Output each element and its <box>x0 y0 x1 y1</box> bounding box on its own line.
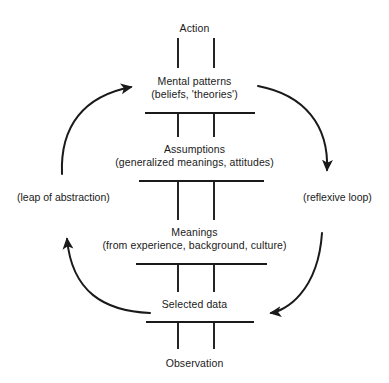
step-label-mental-patterns: Mental patterns (beliefs, 'theories') <box>0 75 389 100</box>
step-title-observation: Observation <box>166 357 224 369</box>
step-label-observation: Observation <box>0 357 389 370</box>
step-subtitle-mental-patterns: (beliefs, 'theories') <box>0 88 389 101</box>
step-subtitle-meanings: (from experience, background, culture) <box>0 239 389 252</box>
step-title-assumptions: Assumptions <box>164 143 225 155</box>
loop-label-reflexive-loop: (reflexive loop) <box>303 191 372 204</box>
ladder-of-inference-diagram: Action Mental patterns (beliefs, 'theori… <box>0 0 389 383</box>
step-title-mental-patterns: Mental patterns <box>158 75 232 87</box>
loop-label-leap-of-abstraction: (leap of abstraction) <box>17 191 110 204</box>
step-label-selected-data: Selected data <box>0 298 389 311</box>
step-title-selected-data: Selected data <box>162 298 228 310</box>
step-label-action: Action <box>0 22 389 35</box>
step-label-assumptions: Assumptions (generalized meanings, attit… <box>0 143 389 168</box>
step-title-meanings: Meanings <box>171 226 217 238</box>
step-label-meanings: Meanings (from experience, background, c… <box>0 226 389 251</box>
step-title-action: Action <box>180 22 210 34</box>
step-subtitle-assumptions: (generalized meanings, attitudes) <box>0 156 389 169</box>
